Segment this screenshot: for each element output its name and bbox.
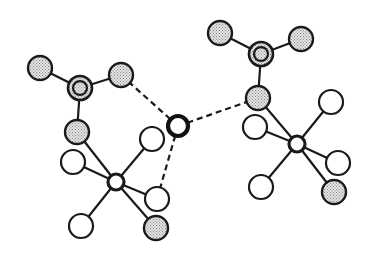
atom-r-w-left <box>243 115 267 139</box>
molecular-diagram <box>0 0 367 254</box>
atom-r-top-left <box>208 21 232 45</box>
atom-l-s-lower-right <box>144 216 168 240</box>
atom-l-lower <box>65 120 89 144</box>
atom-c-bold <box>168 116 188 136</box>
atom-l-w-upper-right <box>140 127 164 151</box>
atom-l-top-right <box>109 63 133 87</box>
atom-l-w-lower-left <box>69 214 93 238</box>
atom-r-top-right <box>289 27 313 51</box>
atom-r-w-lower-left <box>249 175 273 199</box>
atom-r-s-lower-right <box>322 180 346 204</box>
atom-r-w-upper-right <box>319 90 343 114</box>
atom-l-center <box>68 76 92 100</box>
atom-l-w-upper-left <box>61 150 85 174</box>
atom-l-w-right <box>145 187 169 211</box>
atom-r-metal <box>289 136 305 152</box>
atom-l-metal <box>108 174 124 190</box>
atom-r-center <box>249 42 273 66</box>
atom-l-top-left <box>28 56 52 80</box>
atom-r-w-right <box>326 151 350 175</box>
atom-r-lower <box>246 86 270 110</box>
